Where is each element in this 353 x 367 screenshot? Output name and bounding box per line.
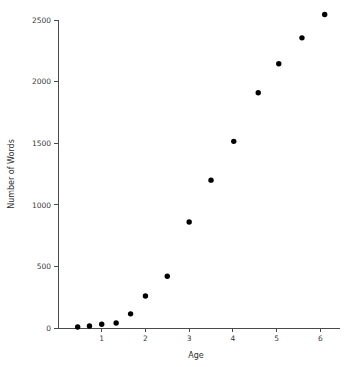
x-axis: 123456 bbox=[58, 328, 340, 343]
x-tick-label: 5 bbox=[274, 334, 279, 343]
data-point bbox=[276, 61, 281, 66]
y-tick-label: 1500 bbox=[32, 139, 51, 148]
y-tick-label: 2000 bbox=[32, 77, 51, 86]
data-point bbox=[165, 274, 170, 279]
data-point bbox=[256, 90, 261, 95]
y-tick-group: 05001000150020002500 bbox=[32, 16, 58, 333]
data-point bbox=[208, 177, 213, 182]
chart-canvas: 05001000150020002500 123456 Age Number o… bbox=[0, 0, 353, 367]
y-axis: 05001000150020002500 bbox=[32, 16, 58, 333]
y-tick-label: 1000 bbox=[32, 201, 51, 210]
y-axis-title: Number of Words bbox=[7, 139, 16, 209]
scatter-chart: 05001000150020002500 123456 Age Number o… bbox=[0, 0, 353, 367]
x-tick-label: 6 bbox=[318, 334, 323, 343]
data-point bbox=[186, 219, 191, 224]
data-point bbox=[113, 320, 118, 325]
y-tick-label: 0 bbox=[46, 324, 51, 333]
x-tick-group: 123456 bbox=[99, 328, 323, 343]
data-point bbox=[299, 35, 304, 40]
data-point bbox=[99, 322, 104, 327]
y-tick-label: 2500 bbox=[32, 16, 51, 25]
x-tick-label: 3 bbox=[187, 334, 192, 343]
data-point bbox=[143, 293, 148, 298]
data-point bbox=[75, 324, 80, 329]
x-tick-label: 1 bbox=[99, 334, 104, 343]
data-point bbox=[87, 323, 92, 328]
x-axis-title: Age bbox=[188, 351, 204, 360]
data-point bbox=[322, 12, 327, 17]
data-points-layer bbox=[75, 12, 327, 330]
x-tick-label: 4 bbox=[230, 334, 235, 343]
data-point bbox=[231, 139, 236, 144]
x-tick-label: 2 bbox=[143, 334, 148, 343]
y-tick-label: 500 bbox=[37, 262, 52, 271]
data-point bbox=[128, 311, 133, 316]
